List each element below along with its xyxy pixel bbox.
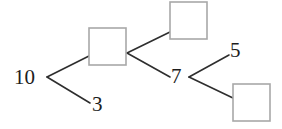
- label-seven: 7: [171, 66, 182, 87]
- answer-boxes: [89, 2, 270, 121]
- label-three: 3: [92, 94, 103, 115]
- edge-seven-to-five: [189, 55, 229, 77]
- edge-box1-to-box2: [127, 32, 170, 53]
- label-five: 5: [230, 40, 241, 61]
- number-bond-diagram: 10 3 7 5: [0, 0, 282, 129]
- edge-seven-to-box3: [189, 77, 233, 98]
- diagram-canvas: [0, 0, 282, 129]
- connector-lines: [47, 32, 233, 103]
- answer-box-bottom-right[interactable]: [233, 84, 270, 121]
- edge-root-to-box1: [47, 56, 89, 77]
- edge-root-to-three: [47, 77, 90, 103]
- answer-box-top-right[interactable]: [170, 2, 207, 39]
- edge-box1-to-seven: [127, 53, 170, 77]
- answer-box-upper-left[interactable]: [89, 28, 126, 65]
- label-root-ten: 10: [14, 67, 35, 88]
